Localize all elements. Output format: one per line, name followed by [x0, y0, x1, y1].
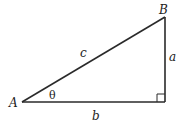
right-angle-marker — [157, 94, 165, 102]
vertex-label-a: A — [8, 96, 18, 110]
vertex-label-b: B — [158, 3, 168, 17]
side-label-b: b — [92, 109, 100, 123]
side-c-hypotenuse — [22, 17, 165, 102]
right-triangle-diagram: A B c a b θ — [0, 0, 184, 124]
triangle — [22, 17, 165, 102]
side-label-a: a — [169, 50, 176, 64]
angle-label-theta: θ — [49, 89, 56, 102]
side-label-c: c — [80, 46, 87, 60]
